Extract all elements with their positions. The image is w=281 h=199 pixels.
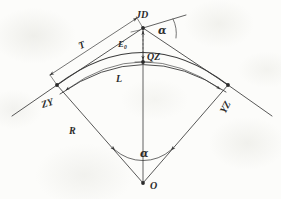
label-l: L xyxy=(116,74,122,84)
forward-tangent-line xyxy=(143,28,272,116)
label-e0: E0 xyxy=(118,40,127,49)
point-yz-dot xyxy=(226,83,230,87)
figure-canvas: JD α T E0 QZ L ZY YZ R α O xyxy=(0,0,281,199)
label-e0-subscript: 0 xyxy=(124,44,127,50)
point-qz-dot xyxy=(141,60,145,64)
radius-line-right xyxy=(143,85,228,183)
label-alpha-top: α xyxy=(158,25,166,36)
point-zy-dot xyxy=(55,83,59,87)
angle-arc-at-jd xyxy=(173,19,176,38)
label-alpha-bottom: α xyxy=(140,148,148,159)
label-qz: QZ xyxy=(147,52,160,62)
label-jd: JD xyxy=(136,10,148,20)
label-o: O xyxy=(150,181,157,191)
label-r: R xyxy=(69,126,76,136)
point-jd-dot xyxy=(141,26,145,30)
point-o-dot xyxy=(141,181,145,185)
